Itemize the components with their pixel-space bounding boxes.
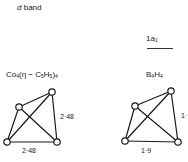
bond-edge [135, 91, 171, 106]
cobalt-tetrahedron [4, 89, 60, 145]
bond-edge [52, 92, 57, 142]
atom-node [168, 88, 174, 94]
distance-side-right: 1· [181, 112, 187, 120]
tetrahedra-diagram [0, 0, 188, 162]
bond-edge [19, 107, 57, 142]
distance-bottom-left: 2·48 [22, 147, 36, 155]
atom-node [54, 139, 60, 145]
atom-node [4, 139, 10, 145]
bond-edge [125, 141, 178, 142]
atom-node [16, 104, 22, 110]
atom-node [49, 89, 55, 95]
atom-node [132, 103, 138, 109]
bond-edge [7, 107, 19, 142]
borane-tetrahedron [122, 88, 181, 145]
atom-node [175, 139, 181, 145]
bond-edge [171, 91, 178, 142]
distance-side-left: 2·48 [60, 113, 74, 121]
distance-bottom-right: 1·9 [141, 147, 151, 155]
atom-node [122, 138, 128, 144]
bond-edge [19, 92, 52, 107]
